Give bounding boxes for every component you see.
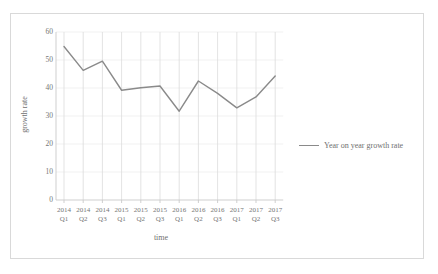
x-axis-line [56, 200, 283, 203]
category-gridlines [56, 32, 283, 200]
legend-label-year-on-year-growth-rate: Year on year growth rate [324, 141, 403, 150]
plot-area [11, 14, 425, 260]
chart-legend: Year on year growth rate [299, 141, 403, 150]
legend-line-swatch [299, 145, 319, 146]
series-line-1 [64, 47, 275, 112]
data-series-group [64, 47, 275, 112]
chart-figure: growth rate time 0102030405060 2014Q1201… [10, 13, 424, 259]
